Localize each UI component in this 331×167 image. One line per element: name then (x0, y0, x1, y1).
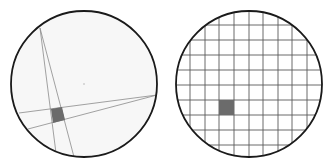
left-circle-panel (11, 11, 157, 157)
shaded-grid-cell (219, 100, 234, 115)
diagram-canvas (0, 0, 331, 167)
center-point-marker (83, 83, 85, 85)
right-circle-panel (176, 11, 322, 157)
